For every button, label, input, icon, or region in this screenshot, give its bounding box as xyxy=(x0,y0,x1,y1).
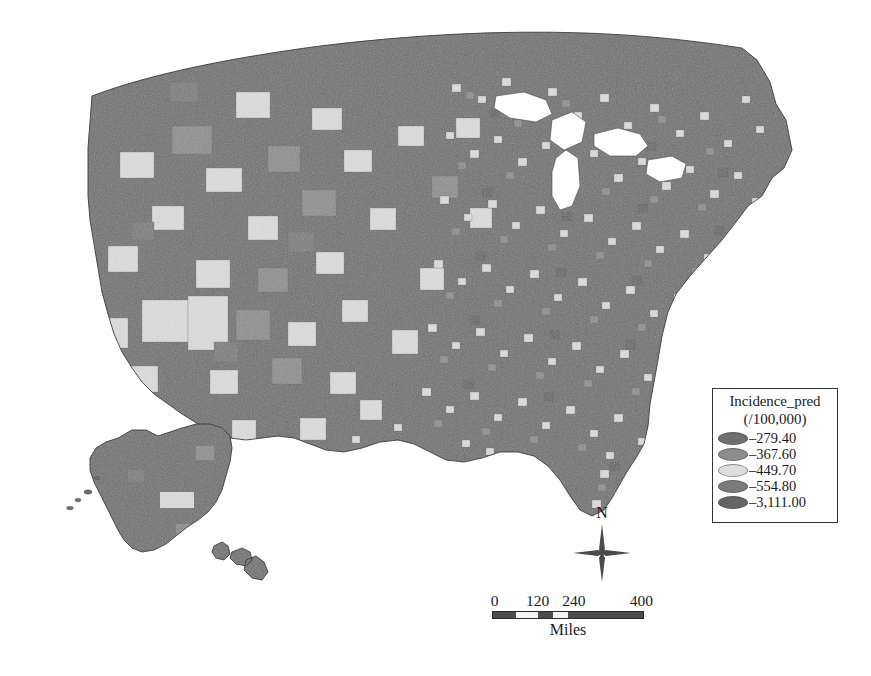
choropleth-map[interactable] xyxy=(0,0,871,676)
legend-title: Incidence_pred xyxy=(718,393,832,410)
north-arrow-label: N xyxy=(565,505,639,521)
alaska-inset xyxy=(85,418,240,560)
scale-tick: 400 xyxy=(630,592,653,610)
scale-tick: 0 xyxy=(491,592,499,610)
map-legend[interactable]: Incidence_pred (/100,000) –279.40 –367.6… xyxy=(712,388,838,523)
legend-item[interactable]: –3,111.00 xyxy=(718,494,832,510)
legend-item-label: –554.80 xyxy=(749,479,796,494)
scale-segment xyxy=(553,612,568,618)
legend-item[interactable]: –279.40 xyxy=(718,430,832,446)
legend-swatch-icon xyxy=(718,496,748,509)
legend-item-label: –367.60 xyxy=(749,447,796,462)
scale-segment xyxy=(568,612,643,618)
legend-swatch-icon xyxy=(718,464,748,477)
scale-bar: 0 120 240 400 Miles xyxy=(488,592,653,640)
scale-bar-ticks: 0 120 240 400 xyxy=(488,592,653,611)
hawaii-inset xyxy=(205,536,275,586)
scale-tick: 120 xyxy=(526,592,549,610)
legend-item-label: –449.70 xyxy=(749,463,796,478)
legend-swatch-icon xyxy=(718,448,748,461)
north-arrow: N xyxy=(565,505,639,597)
legend-swatch-icon xyxy=(718,432,748,445)
legend-item-label: –279.40 xyxy=(749,431,796,446)
legend-subtitle: (/100,000) xyxy=(718,410,832,428)
scale-bar-units: Miles xyxy=(488,620,648,640)
legend-item[interactable]: –449.70 xyxy=(718,462,832,478)
scale-segment xyxy=(538,612,553,618)
scale-tick: 240 xyxy=(562,592,585,610)
legend-item[interactable]: –367.60 xyxy=(718,446,832,462)
legend-item-label: –3,111.00 xyxy=(749,495,806,510)
map-canvas[interactable] xyxy=(0,0,871,676)
scale-bar-graphic xyxy=(492,611,644,619)
scale-segment xyxy=(516,612,539,618)
legend-items: –279.40 –367.60 –449.70 –554.80 –3,111.0… xyxy=(718,430,832,510)
legend-swatch-icon xyxy=(718,480,748,493)
compass-north-arrow-icon xyxy=(571,522,633,584)
scale-segment xyxy=(493,612,516,618)
map-figure: Incidence_pred (/100,000) –279.40 –367.6… xyxy=(0,0,871,676)
legend-item[interactable]: –554.80 xyxy=(718,478,832,494)
